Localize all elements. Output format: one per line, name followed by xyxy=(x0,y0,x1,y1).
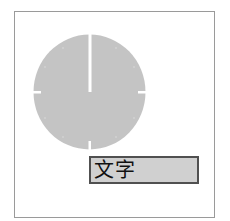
tick-3 xyxy=(138,91,146,94)
minor-tick xyxy=(62,47,64,49)
tick-6 xyxy=(89,141,92,150)
text-label-box: 文字 xyxy=(89,156,199,184)
minor-tick xyxy=(62,136,64,138)
tick-9 xyxy=(33,91,41,94)
clock-icon xyxy=(33,34,146,150)
minor-tick xyxy=(115,47,117,49)
minor-tick xyxy=(44,117,46,119)
label-text: 文字 xyxy=(94,159,136,181)
minor-tick xyxy=(44,66,46,68)
clock-face xyxy=(33,34,146,150)
minor-tick xyxy=(133,66,135,68)
clock-hand xyxy=(89,34,92,92)
minor-tick xyxy=(115,136,117,138)
minor-tick xyxy=(133,117,135,119)
